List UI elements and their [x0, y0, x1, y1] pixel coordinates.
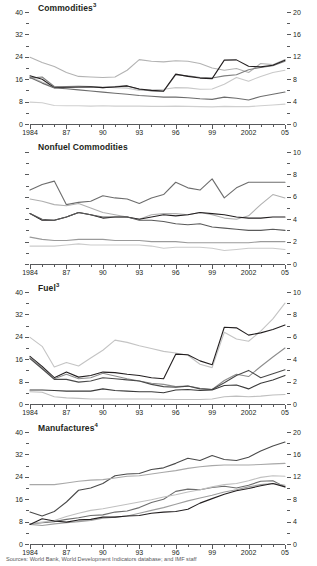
y-axis-left-tick: [26, 90, 29, 91]
x-axis-label: 90: [89, 129, 117, 137]
x-axis-label: 2002: [235, 269, 263, 277]
series-line-series-5: [30, 237, 285, 243]
y-axis-right-label: 0: [293, 401, 297, 408]
y-axis-right-tick: [287, 303, 290, 304]
y-axis-left-tick: [25, 57, 29, 58]
y-axis-right-tick: [287, 102, 291, 103]
y-axis-left-label: 32: [0, 31, 23, 38]
y-axis-left-tick: [25, 432, 29, 433]
y-axis-right-label: 4: [293, 98, 297, 105]
y-axis-left-tick: [26, 393, 29, 394]
y-axis-right-tick: [287, 152, 291, 153]
x-tick: [42, 405, 43, 407]
y-axis-right-tick: [287, 499, 291, 500]
x-tick: [236, 265, 237, 267]
y-axis-right-label: 10: [293, 289, 301, 296]
series-line-series-6: [30, 484, 285, 525]
x-tick: [200, 265, 201, 267]
y-axis-left-tick: [26, 186, 29, 187]
y-axis-left-tick: [25, 477, 29, 478]
y-axis-right-label: 6: [293, 333, 297, 340]
y-axis-left-tick: [26, 68, 29, 69]
y-axis-right-tick: [287, 393, 290, 394]
y-axis-right-tick: [287, 264, 291, 265]
series-line-series-6: [30, 102, 285, 107]
y-axis-right-tick: [287, 382, 291, 383]
y-axis-right-label: 20: [293, 429, 301, 436]
x-axis-label: 1984: [16, 409, 44, 417]
series-line-series-6: [30, 392, 285, 400]
x-tick: [42, 265, 43, 267]
plot-area: [30, 152, 285, 264]
y-axis-left-tick: [26, 163, 29, 164]
series-line-series-4: [30, 212, 285, 230]
x-tick: [42, 125, 43, 127]
y-axis-left-tick: [26, 533, 29, 534]
y-axis-left-tick: [25, 219, 29, 220]
y-axis-left-tick: [26, 466, 29, 467]
y-axis-right-tick: [287, 34, 291, 35]
x-tick: [79, 405, 80, 407]
y-axis-left-label: 8: [0, 518, 23, 525]
y-axis-left-tick: [25, 264, 29, 265]
y-axis-right-tick: [287, 292, 291, 293]
y-axis-left-tick: [25, 102, 29, 103]
y-axis-right-label: 16: [293, 451, 301, 458]
panel-title-text: Nonfuel Commodities: [38, 142, 128, 152]
y-axis-left-tick: [26, 443, 29, 444]
x-tick: [151, 545, 152, 547]
x-axis-label: 99: [198, 129, 226, 137]
y-axis-left-label: 16: [0, 76, 23, 83]
x-tick: [54, 405, 55, 407]
y-axis-left-tick: [26, 46, 29, 47]
x-tick: [151, 125, 152, 127]
series-lines: [30, 432, 285, 544]
x-tick: [224, 545, 225, 547]
series-lines: [30, 12, 285, 124]
y-axis-left-label: 40: [0, 429, 23, 436]
y-axis-right-tick: [287, 488, 290, 489]
x-tick: [261, 265, 262, 267]
x-tick: [54, 125, 55, 127]
y-axis-left-tick: [26, 23, 29, 24]
series-line-series-3: [30, 348, 285, 389]
y-axis-right-tick: [287, 68, 290, 69]
x-axis-label: 93: [125, 129, 153, 137]
x-axis-label: 93: [125, 269, 153, 277]
y-axis-right-tick: [287, 163, 290, 164]
x-axis-label: 87: [52, 129, 80, 137]
x-tick: [164, 125, 165, 127]
x-tick: [224, 125, 225, 127]
y-axis-right-tick: [287, 124, 291, 125]
y-axis-right-tick: [287, 197, 291, 198]
y-axis-right-tick: [287, 314, 291, 315]
y-axis-left-tick: [26, 510, 29, 511]
y-axis-left-tick: [26, 230, 29, 231]
y-axis-left-label: 32: [0, 311, 23, 318]
y-axis-left-label: 24: [0, 333, 23, 340]
y-axis-left-tick: [25, 522, 29, 523]
y-axis-left-tick: [26, 208, 29, 209]
x-tick: [115, 125, 116, 127]
x-tick: [236, 125, 237, 127]
y-axis-right-tick: [287, 432, 291, 433]
y-axis-right-tick: [287, 510, 290, 511]
chart-panel-nonfuel-commodities: Nonfuel Commodities024681019848790939699…: [0, 140, 317, 280]
x-axis-label: 05: [271, 129, 299, 137]
x-tick: [115, 545, 116, 547]
y-axis-right-tick: [287, 533, 290, 534]
panel-title-footnote-marker: 3: [93, 2, 96, 8]
x-tick: [200, 545, 201, 547]
plot-area: [30, 12, 285, 124]
x-axis-label: 90: [89, 269, 117, 277]
y-axis-right-tick: [287, 477, 291, 478]
y-axis-left-tick: [25, 544, 29, 545]
y-axis-left-label: 16: [0, 356, 23, 363]
y-axis-right-tick: [287, 253, 290, 254]
y-axis-right-tick: [287, 348, 290, 349]
y-axis-right-tick: [287, 326, 290, 327]
x-tick: [79, 545, 80, 547]
y-axis-right-tick: [287, 46, 290, 47]
x-axis-label: 96: [162, 129, 190, 137]
y-axis-right-label: 6: [293, 193, 297, 200]
